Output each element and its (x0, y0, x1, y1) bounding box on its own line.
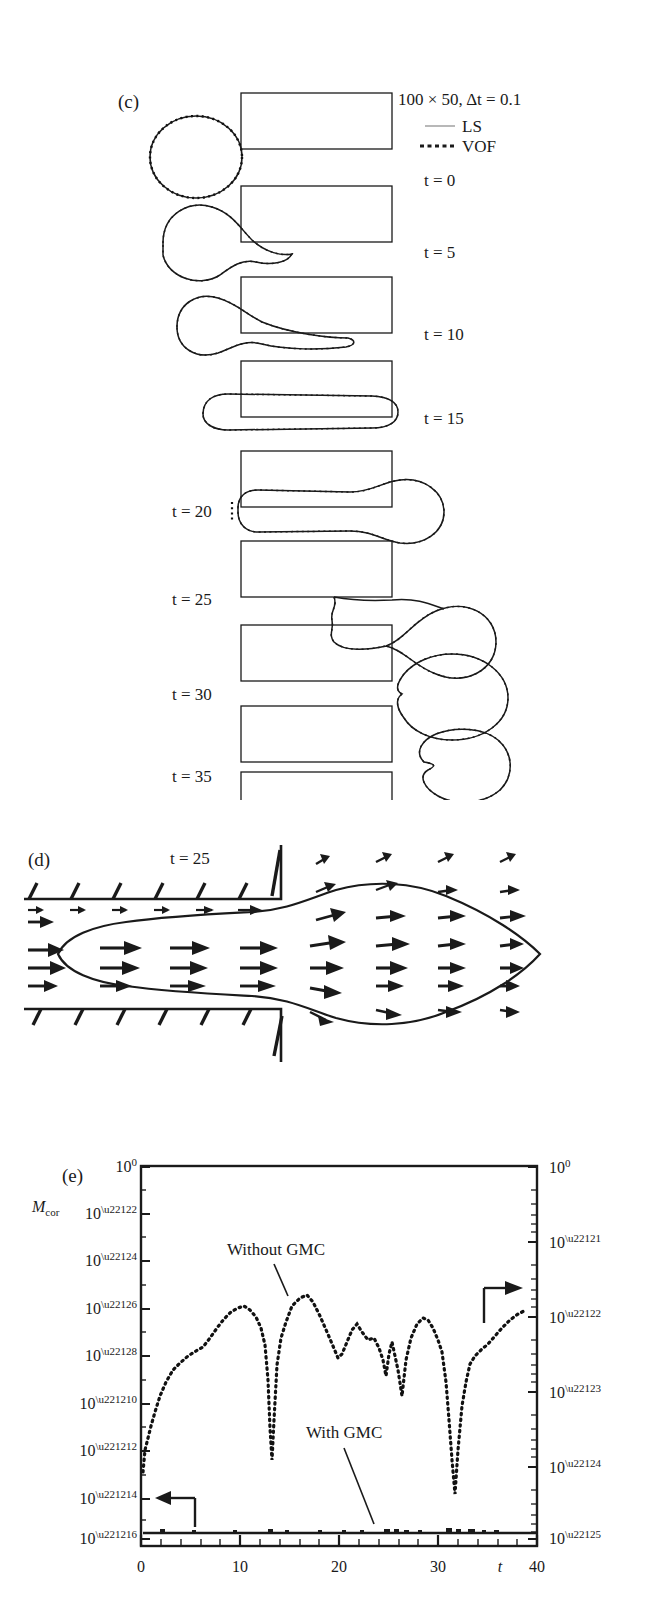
time-label-t20: t = 20 (172, 502, 212, 521)
panel-d-label: (d) (28, 849, 50, 871)
svg-text:10\u221214: 10\u221214 (79, 1488, 137, 1507)
interface-t30 (398, 654, 508, 740)
svg-text:10\u22122: 10\u22122 (85, 1203, 137, 1222)
svg-text:10\u22122: 10\u22122 (549, 1307, 601, 1326)
xtick-0: 0 (137, 1558, 145, 1575)
interface-t15 (203, 394, 398, 430)
left-axis-ticks: 100 10\u22122 10\u22124 10\u22126 10\u22… (79, 1156, 150, 1547)
svg-text:10\u22124: 10\u22124 (85, 1250, 138, 1269)
xtick-20: 20 (331, 1558, 347, 1575)
interface-t35 (420, 729, 511, 800)
interface-outline-t25 (58, 884, 540, 1025)
xtick-40: 40 (529, 1558, 545, 1575)
svg-text:10\u221212: 10\u221212 (79, 1440, 137, 1459)
time-label-t5: t = 5 (424, 243, 455, 262)
y-axis-label: Mcor (31, 1198, 60, 1218)
time-label-t25: t = 25 (172, 590, 212, 609)
panel-d: (d) t = 25 (0, 826, 661, 1086)
time-label-t0: t = 0 (424, 171, 455, 190)
svg-text:10\u22123: 10\u22123 (549, 1382, 602, 1401)
plot-frame (141, 1166, 537, 1546)
svg-text:10\u22121: 10\u22121 (549, 1232, 601, 1251)
svg-text:100: 100 (549, 1157, 571, 1176)
time-label-t10: t = 10 (424, 325, 464, 344)
x-axis-ticks: 0 10 20 30 t 40 (137, 1535, 545, 1575)
interface-t5 (163, 205, 292, 281)
annotation-without-gmc: Without GMC (227, 1240, 325, 1296)
svg-text:10\u22126: 10\u22126 (85, 1298, 138, 1317)
annotation-without-gmc-text: Without GMC (227, 1240, 325, 1259)
annotation-with-gmc-leader (344, 1448, 374, 1524)
series-without-gmc (143, 1295, 526, 1494)
right-axis-ticks: 100 10\u22121 10\u22122 10\u22123 10\u22… (528, 1157, 602, 1547)
left-axis-arrow (155, 1491, 195, 1527)
time-label-t15: t = 15 (424, 409, 464, 428)
time-label-t35: t = 35 (172, 767, 212, 786)
panel-c: (c) 100 × 50, Δt = 0.1 LS VOF t = 0 t = … (0, 0, 661, 800)
legend-vof-label: VOF (462, 137, 496, 156)
annotation-without-gmc-leader (274, 1264, 288, 1296)
upper-wall (24, 845, 281, 899)
xtick-30: 30 (430, 1558, 446, 1575)
series-with-gmc (143, 1528, 537, 1533)
panel-e-chart: (e) Mcor 100 10\u22122 10\u22124 10\u221… (0, 1120, 661, 1620)
svg-text:10\u221210: 10\u221210 (79, 1393, 137, 1412)
annotation-with-gmc-text: With GMC (306, 1423, 382, 1442)
xtick-10: 10 (232, 1558, 248, 1575)
right-axis-arrow (484, 1281, 523, 1323)
legend-ls-label: LS (462, 117, 482, 136)
svg-text:10\u22124: 10\u22124 (549, 1457, 602, 1476)
svg-text:10\u221216: 10\u221216 (79, 1528, 137, 1547)
panel-d-time-label: t = 25 (170, 849, 210, 868)
figure-root: (c) 100 × 50, Δt = 0.1 LS VOF t = 0 t = … (0, 0, 661, 1621)
svg-text:100: 100 (116, 1156, 138, 1175)
x-axis-label: t (498, 1558, 503, 1575)
panel-c-legend-header: 100 × 50, Δt = 0.1 (398, 90, 521, 109)
time-label-t30: t = 30 (172, 685, 212, 704)
panel-e-label: (e) (62, 1165, 83, 1187)
interface-t20 (232, 480, 444, 544)
panel-c-label: (c) (118, 91, 139, 113)
lower-wall (24, 1009, 282, 1062)
interface-t0 (150, 116, 242, 198)
svg-text:10\u22128: 10\u22128 (85, 1345, 138, 1364)
constriction-blocks (241, 93, 392, 800)
annotation-with-gmc: With GMC (306, 1423, 382, 1524)
interface-t10 (177, 296, 354, 355)
svg-text:10\u22125: 10\u22125 (549, 1528, 602, 1547)
